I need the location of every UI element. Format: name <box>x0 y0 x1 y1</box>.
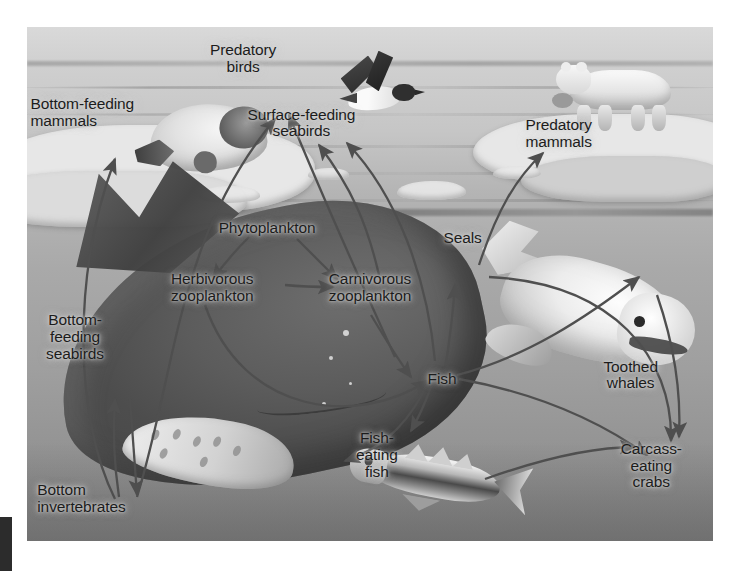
label-fish: Fish <box>428 371 457 388</box>
food-web-illustration: Predatory birds Bottom-feeding mammals S… <box>27 27 713 541</box>
label-predatory-birds: Predatory birds <box>210 42 276 75</box>
label-herbivorous-zooplankton: Herbivorous zooplankton <box>171 271 254 304</box>
label-fish-eating-fish: Fish- eating fish <box>356 430 398 480</box>
label-bottom-feeding-seabirds: Bottom- feeding seabirds <box>46 312 104 362</box>
label-carcass-eating-crabs: Carcass- eating crabs <box>621 441 682 491</box>
label-predatory-mammals: Predatory mammals <box>525 117 591 150</box>
label-phytoplankton: Phytoplankton <box>219 220 316 237</box>
label-seals: Seals <box>443 230 481 247</box>
label-surface-feeding-seabirds: Surface-feeding seabirds <box>247 107 355 140</box>
label-carnivorous-zooplankton: Carnivorous zooplankton <box>329 271 412 304</box>
label-bottom-invertebrates: Bottom invertebrates <box>37 482 125 515</box>
page-canvas: Predatory birds Bottom-feeding mammals S… <box>0 0 740 571</box>
label-bottom-feeding-mammals: Bottom-feeding mammals <box>30 96 134 129</box>
label-toothed-whales: Toothed whales <box>603 359 657 392</box>
scan-crop-bar <box>0 517 12 571</box>
